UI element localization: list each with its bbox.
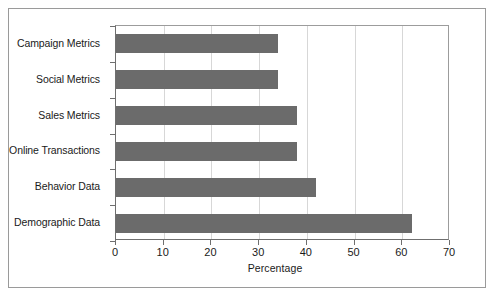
bar	[116, 178, 316, 197]
y-axis-tick	[110, 62, 116, 63]
plot-area	[115, 25, 449, 240]
chart-figure: Campaign MetricsSocial MetricsSales Metr…	[0, 0, 494, 297]
bar-row	[116, 134, 448, 170]
bar	[116, 214, 412, 233]
bar-row	[116, 169, 448, 205]
x-axis-tick	[163, 240, 164, 245]
bar	[116, 106, 297, 125]
y-axis-tick	[110, 26, 116, 27]
x-axis-tick	[115, 240, 116, 245]
x-axis-tick	[210, 240, 211, 245]
y-axis-label: Social Metrics	[36, 73, 100, 85]
y-axis-tick	[110, 98, 116, 99]
bar	[116, 142, 297, 161]
x-axis-tick	[354, 240, 355, 245]
y-axis-category-labels: Campaign MetricsSocial MetricsSales Metr…	[0, 25, 108, 240]
x-axis-tick-label: 20	[204, 246, 216, 258]
y-axis-tick	[110, 169, 116, 170]
x-axis-tick	[258, 240, 259, 245]
y-axis-label: Campaign Metrics	[17, 37, 100, 49]
x-axis-tick-label: 60	[395, 246, 407, 258]
bar-row	[116, 26, 448, 62]
bar-row	[116, 62, 448, 98]
x-axis-tick-label: 0	[112, 246, 118, 258]
y-axis-label: Online Transactions	[9, 144, 100, 156]
y-axis-tick	[110, 134, 116, 135]
x-axis-title: Percentage	[0, 262, 494, 274]
x-axis-tick-label: 30	[252, 246, 264, 258]
y-axis-label: Behavior Data	[35, 180, 100, 192]
bar-row	[116, 205, 448, 241]
y-axis-label: Sales Metrics	[38, 109, 100, 121]
bar-row	[116, 98, 448, 134]
bar	[116, 34, 278, 53]
y-axis-tick	[110, 205, 116, 206]
x-axis-tick	[401, 240, 402, 245]
x-axis-tick	[306, 240, 307, 245]
x-axis-tick-label: 10	[157, 246, 169, 258]
x-axis-title-text: Percentage	[248, 262, 303, 274]
y-axis-label: Demographic Data	[14, 216, 100, 228]
x-axis-tick-label: 70	[443, 246, 455, 258]
bar	[116, 70, 278, 89]
x-axis-tick-labels: 010203040506070	[0, 246, 494, 262]
x-axis-tick-label: 50	[347, 246, 359, 258]
x-axis-tick	[449, 240, 450, 245]
x-axis-tick-label: 40	[300, 246, 312, 258]
